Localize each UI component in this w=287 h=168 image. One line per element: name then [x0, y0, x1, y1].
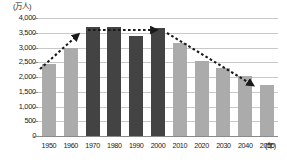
- bar-1980: [107, 27, 121, 136]
- y-tick-mark-500: [34, 121, 38, 122]
- y-tick-mark-3000: [34, 48, 38, 49]
- bar-1960: [64, 48, 78, 137]
- bar-2020: [195, 61, 209, 136]
- y-tick-mark-4000: [34, 18, 38, 19]
- y-tick-mark-2500: [34, 62, 38, 63]
- bar-2010: [173, 43, 187, 136]
- bar-2050: [260, 85, 274, 136]
- y-tick-label-1500: 1,500: [0, 88, 36, 96]
- y-tick-mark-3500: [34, 33, 38, 34]
- gridline-0: [38, 136, 278, 137]
- bar-2030: [216, 68, 230, 136]
- y-tick-mark-1000: [34, 107, 38, 108]
- bar-series: [38, 18, 278, 136]
- y-tick-label-4000: 4,000: [0, 14, 36, 22]
- y-tick-label-3000: 3,000: [0, 44, 36, 52]
- y-tick-label-0: 0: [0, 132, 36, 140]
- y-axis-unit-label: (万人): [13, 2, 31, 11]
- bar-1950: [42, 64, 56, 136]
- y-tick-mark-2000: [34, 77, 38, 78]
- bar-2000: [151, 28, 165, 136]
- y-tick-label-1000: 1,000: [0, 103, 36, 111]
- bar-1970: [86, 27, 100, 136]
- y-tick-label-500: 500: [0, 117, 36, 125]
- bar-2040: [238, 76, 252, 136]
- x-axis-unit-label: (年): [265, 141, 276, 150]
- plot-area: [38, 18, 278, 136]
- y-tick-mark-0: [34, 136, 38, 137]
- population-bar-chart: (万人) 05001,0001,5002,0002,5003,0003,5004…: [0, 0, 287, 168]
- y-tick-label-2500: 2,500: [0, 58, 36, 66]
- y-tick-label-2000: 2,000: [0, 73, 36, 81]
- y-tick-label-3500: 3,500: [0, 29, 36, 37]
- bar-1990: [129, 36, 143, 136]
- y-tick-mark-1500: [34, 92, 38, 93]
